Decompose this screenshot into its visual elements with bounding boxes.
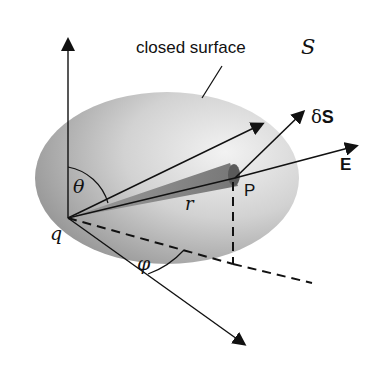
radius-label: r	[185, 193, 195, 214]
area-vector-label: δS	[311, 106, 334, 127]
theta-label: θ	[73, 175, 85, 197]
diagram-canvas: closed surface S θ r q φ P δS E	[0, 0, 377, 377]
field-label: E	[340, 155, 351, 174]
point-label: P	[244, 181, 255, 200]
caption-leader-line	[202, 66, 222, 98]
caption-label: closed surface	[136, 38, 246, 57]
phi-label: φ	[137, 252, 151, 274]
charge-label: q	[50, 222, 62, 244]
surface-symbol: S	[301, 35, 315, 59]
gauss-law-diagram: closed surface S θ r q φ P δS E	[0, 0, 377, 377]
ground-extension-line	[233, 264, 312, 283]
